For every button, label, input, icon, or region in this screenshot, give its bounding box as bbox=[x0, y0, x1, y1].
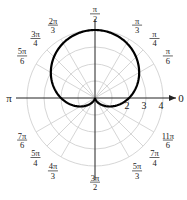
angle-label-denominator: 3 bbox=[51, 25, 55, 35]
angle-label-pi: π bbox=[6, 92, 12, 104]
angle-label: 5π4 bbox=[30, 148, 40, 168]
angle-label: 5π6 bbox=[17, 46, 27, 66]
angle-label-numerator: 3π bbox=[91, 173, 100, 183]
angle-label-numerator: 2π bbox=[49, 16, 58, 26]
angle-label-denominator: 6 bbox=[20, 140, 24, 150]
angle-label-numerator: 7π bbox=[18, 131, 27, 141]
angle-label-denominator: 4 bbox=[33, 38, 38, 48]
angle-label: 4π3 bbox=[48, 161, 58, 181]
angle-label-numerator: 5π bbox=[31, 148, 40, 158]
angle-label-denominator: 3 bbox=[135, 25, 139, 35]
angle-label-numerator: π bbox=[166, 46, 171, 56]
radial-tick-label: 4 bbox=[159, 100, 164, 111]
angle-label-denominator: 4 bbox=[33, 158, 38, 168]
angle-label: π6 bbox=[163, 46, 173, 66]
angle-label-numerator: 3π bbox=[31, 29, 40, 39]
angle-label-denominator: 2 bbox=[93, 182, 97, 192]
angle-label: 3π2 bbox=[90, 173, 100, 193]
angle-label-denominator: 6 bbox=[20, 56, 24, 66]
angle-label: 5π3 bbox=[132, 161, 142, 181]
angle-label: 7π4 bbox=[150, 148, 160, 168]
angle-label-denominator: 3 bbox=[135, 171, 139, 181]
angle-label: 3π4 bbox=[30, 29, 40, 49]
angle-label-denominator: 6 bbox=[166, 140, 170, 150]
radial-tick-labels: 234 bbox=[125, 100, 164, 111]
angle-label: π4 bbox=[150, 29, 160, 49]
angle-label-denominator: 4 bbox=[152, 158, 157, 168]
angle-label-numerator: π bbox=[93, 4, 98, 14]
angle-label-numerator: π bbox=[135, 16, 140, 26]
angle-label-denominator: 3 bbox=[51, 171, 55, 181]
angle-label-zero: 0 bbox=[178, 92, 184, 104]
angle-label-numerator: π bbox=[152, 29, 157, 39]
angle-label-denominator: 6 bbox=[166, 56, 170, 66]
axis-arrow-icon bbox=[169, 95, 176, 101]
angle-label-numerator: 11π bbox=[162, 131, 175, 141]
angle-label-numerator: 4π bbox=[49, 161, 58, 171]
angle-label-numerator: 7π bbox=[150, 148, 159, 158]
angle-label: 11π6 bbox=[162, 131, 175, 151]
polar-plot: 0 π 234 π6π4π3π22π33π45π67π65π44π33π25π3… bbox=[0, 0, 187, 200]
radial-tick-label: 3 bbox=[142, 100, 147, 111]
angle-label: π2 bbox=[90, 4, 100, 24]
angle-label-numerator: 5π bbox=[18, 46, 27, 56]
angle-label-numerator: 5π bbox=[133, 161, 142, 171]
angle-label-denominator: 2 bbox=[93, 14, 97, 24]
angle-label: 7π6 bbox=[17, 131, 27, 151]
angle-label: 2π3 bbox=[48, 16, 58, 36]
angle-label: π3 bbox=[132, 16, 142, 36]
angle-label-denominator: 4 bbox=[152, 38, 157, 48]
